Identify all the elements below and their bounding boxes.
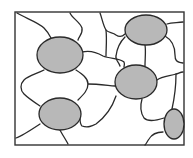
microstructure-diagram [0, 0, 193, 158]
particle-1 [37, 37, 83, 73]
particle-2 [125, 15, 167, 45]
particle-3 [115, 65, 157, 99]
particle-4 [39, 98, 81, 130]
particle-5 [164, 109, 184, 139]
